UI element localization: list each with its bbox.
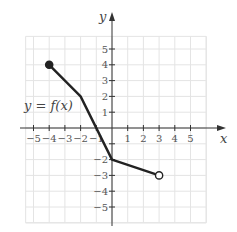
y-tick-label: −3 [93,170,108,181]
x-tick-label: −4 [42,133,57,144]
axes [20,12,226,226]
x-tick-label: −3 [58,133,73,144]
y-tick-label: 5 [102,44,108,55]
function-graph: −5−4−3−2−112345−5−4−3−212345 x y y = f(x… [0,0,237,232]
x-tick-label: 4 [172,133,178,144]
x-axis-label: x [220,131,228,146]
x-tick-label: 3 [156,133,162,144]
x-tick-label: −2 [73,133,88,144]
y-tick-label: −4 [93,186,108,197]
x-tick-label: −5 [26,133,41,144]
y-tick-label: 3 [102,75,108,86]
y-tick-label: 1 [102,107,108,118]
y-tick-label: −5 [93,202,108,213]
y-axis-arrow-icon [109,12,115,21]
x-tick-label: 2 [140,133,146,144]
y-tick-label: 4 [102,59,108,70]
function-label: y = f(x) [23,98,73,113]
y-tick-label: −2 [93,154,108,165]
y-tick-label: 2 [102,91,108,102]
y-axis-label: y [98,9,107,24]
x-tick-label: 1 [125,133,131,144]
open-endpoint [156,172,163,179]
x-tick-label: 5 [187,133,193,144]
closed-endpoint [46,61,53,68]
